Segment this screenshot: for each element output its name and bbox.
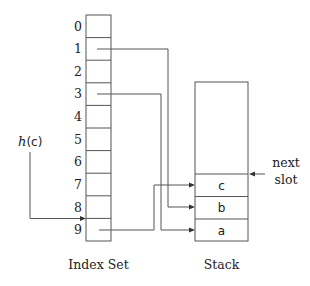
index-label-9: 9 — [74, 222, 82, 237]
edge-index9-to-c — [99, 183, 195, 231]
index-label-2: 2 — [74, 64, 82, 79]
index-label-0: 0 — [74, 19, 82, 34]
index-label-4: 4 — [74, 109, 82, 124]
stack-caption: Stack — [204, 257, 240, 272]
index-set-caption: Index Set — [68, 257, 128, 272]
hash-close: ) — [38, 135, 43, 149]
stack-box — [195, 82, 248, 241]
index-label-8: 8 — [74, 200, 82, 215]
arrowhead-icon — [249, 172, 255, 177]
next-slot-label-line2: slot — [275, 172, 298, 187]
index-label-5: 5 — [74, 132, 82, 147]
stack-cell-b: b — [218, 201, 226, 215]
next-slot-pointer: next slot — [249, 155, 300, 187]
arrowhead-icon — [80, 216, 86, 221]
arrowhead-icon — [189, 205, 195, 210]
index-set-stack-diagram: 0 1 2 3 4 5 6 7 8 9 c b a h(c) — [0, 0, 310, 286]
stack-cell-a: a — [218, 224, 225, 238]
index-label-6: 6 — [74, 154, 82, 169]
index-label-3: 3 — [74, 86, 82, 101]
stack: c b a — [195, 82, 248, 241]
hash-func: h — [18, 134, 26, 149]
hash-arg: c — [31, 135, 38, 149]
index-label-1: 1 — [74, 41, 82, 56]
arrowhead-icon — [189, 228, 195, 233]
next-slot-label-line1: next — [272, 155, 300, 170]
edge-index3-to-a — [97, 94, 195, 233]
arrowhead-icon — [189, 183, 195, 188]
hash-label: h(c) — [18, 134, 42, 149]
stack-cell-c: c — [218, 179, 225, 193]
index-label-7: 7 — [74, 177, 82, 192]
